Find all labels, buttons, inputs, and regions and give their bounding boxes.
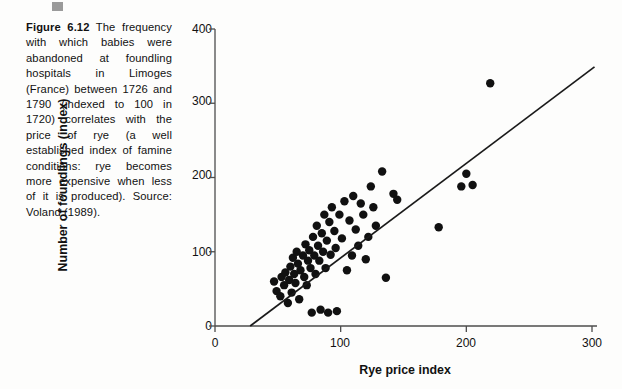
data-point (313, 222, 321, 230)
data-point (330, 227, 338, 235)
trend-line (250, 67, 594, 326)
data-point (276, 292, 284, 300)
data-point (393, 196, 401, 204)
data-point (340, 197, 348, 205)
data-point (362, 255, 370, 263)
data-point (328, 203, 336, 211)
data-point (286, 262, 294, 270)
data-point (378, 167, 386, 175)
data-point (326, 251, 334, 259)
data-point (462, 170, 470, 178)
data-point (333, 307, 341, 315)
data-point (308, 308, 316, 316)
data-point (291, 279, 299, 287)
data-point (331, 244, 339, 252)
data-point (486, 79, 494, 87)
data-point (352, 225, 360, 233)
data-point (316, 305, 324, 313)
data-point (270, 277, 278, 285)
data-point (357, 199, 365, 207)
plot-canvas (0, 0, 622, 389)
data-point (345, 216, 353, 224)
data-point (309, 233, 317, 241)
data-point (349, 192, 357, 200)
data-point (343, 266, 351, 274)
data-point (468, 181, 476, 189)
data-point (325, 218, 333, 226)
data-point (369, 203, 377, 211)
data-point (382, 274, 390, 282)
axis-ticks (209, 29, 592, 332)
data-point (434, 223, 442, 231)
data-point (324, 308, 332, 316)
data-point (295, 295, 303, 303)
data-point (367, 182, 375, 190)
data-point (323, 236, 331, 244)
data-point (359, 210, 367, 218)
data-point (457, 182, 465, 190)
data-points-layer (270, 79, 495, 317)
data-point (319, 248, 327, 256)
data-point (300, 273, 308, 281)
figure-page: Figure 6.12 The frequency with which bab… (0, 0, 622, 389)
data-point (335, 210, 343, 218)
data-point (315, 256, 323, 264)
data-point (318, 229, 326, 237)
data-point (320, 210, 328, 218)
scatter-plot-figure: Number of foundlings (index) Rye price i… (0, 0, 622, 389)
data-point (338, 234, 346, 242)
